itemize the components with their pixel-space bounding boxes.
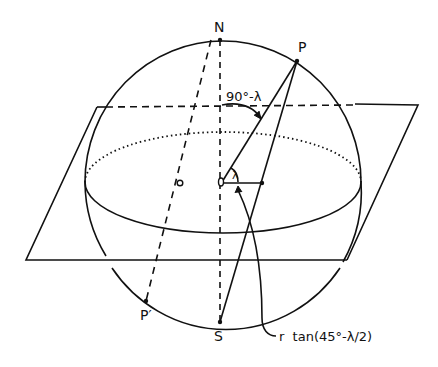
diameter-p-pprime [146, 40, 211, 301]
label-colatitude: 90°-λ [226, 89, 262, 104]
p-point [295, 59, 299, 63]
equator-back [85, 132, 361, 182]
label-p: P [298, 39, 306, 55]
axis-intersection-point [177, 180, 183, 186]
north-pole-point [218, 38, 222, 42]
plane-top-edge-hidden [106, 105, 355, 107]
distance-leader-arrowhead [235, 186, 242, 193]
radius-op [222, 61, 297, 182]
label-distance: r tan(45°-λ/2) [279, 329, 372, 344]
projected-point [260, 181, 264, 185]
plane-right-edge [347, 104, 418, 260]
distance-leader [238, 190, 276, 336]
label-s: S [214, 328, 223, 344]
pprime-point [144, 299, 148, 303]
center-point [219, 178, 224, 186]
equator-front [85, 182, 361, 233]
stereographic-projection-diagram: N P 90°-λ λ P′ S r tan(45°-λ/2) [0, 0, 438, 367]
sphere-upper-outline [85, 41, 361, 182]
label-pprime: P′ [140, 307, 152, 323]
label-n: N [214, 19, 224, 35]
south-pole-point [218, 320, 222, 324]
plane-left-edge [26, 107, 347, 260]
label-latitude: λ [232, 169, 239, 182]
